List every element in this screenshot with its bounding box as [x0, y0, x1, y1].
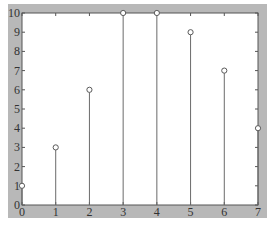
stem-marker — [87, 87, 92, 92]
y-tick-label: 2 — [14, 160, 20, 174]
stem-chart: 01234567 012345678910 — [0, 0, 270, 229]
x-tick-label: 4 — [154, 205, 160, 219]
x-tick-label: 1 — [53, 205, 59, 219]
x-tick-label: 6 — [221, 205, 227, 219]
x-tick-label: 3 — [120, 205, 126, 219]
stem-marker — [188, 30, 193, 35]
x-tick-label: 5 — [188, 205, 194, 219]
stem-marker — [121, 10, 126, 15]
y-tick-label: 4 — [14, 121, 20, 135]
stem-marker — [222, 68, 227, 73]
stem-marker — [53, 145, 58, 150]
x-tick-label: 2 — [86, 205, 92, 219]
y-tick-label: 8 — [14, 44, 20, 58]
y-tick-label: 3 — [14, 140, 20, 154]
x-tick-label: 7 — [255, 205, 261, 219]
stem-marker — [154, 10, 159, 15]
y-tick-label: 7 — [14, 64, 20, 78]
y-tick-label: 6 — [14, 83, 20, 97]
stem-marker — [19, 183, 24, 188]
y-tick-label: 10 — [8, 6, 20, 20]
y-tick-label: 0 — [14, 198, 20, 212]
y-tick-label: 9 — [14, 25, 20, 39]
stem-marker — [255, 126, 260, 131]
plot-area — [22, 13, 258, 205]
y-tick-label: 5 — [14, 102, 20, 116]
